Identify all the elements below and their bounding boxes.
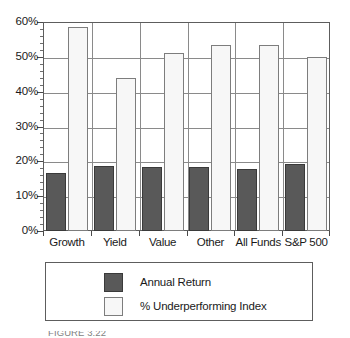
legend-item-underperforming-index: % Underperforming Index [104, 295, 266, 317]
bar-growth-annual-return [46, 173, 66, 231]
legend-label: Annual Return [140, 276, 211, 289]
bar-value--underperforming-index [164, 53, 184, 231]
y-axis-tick-label: 20% [0, 155, 38, 167]
bar-yield-annual-return [94, 166, 114, 231]
bar-all-funds-annual-return [237, 169, 257, 231]
bars-layer [43, 22, 330, 231]
bar-s-p-500-annual-return [285, 164, 305, 231]
bar-growth--underperforming-index [68, 27, 88, 231]
bar-yield--underperforming-index [116, 78, 136, 231]
bar-value-annual-return [142, 167, 162, 231]
bar-other--underperforming-index [211, 45, 231, 231]
plot-area: 60% 50% 40% 30% 20% 10% 0% Growth Yield … [0, 0, 350, 250]
legend-swatch-underperforming-index [104, 297, 123, 316]
x-axis-labels: Growth Yield Value Other All Funds S&P 5… [43, 236, 330, 252]
x-axis-category-label: S&P 500 [274, 236, 338, 249]
y-axis-labels: 60% 50% 40% 30% 20% 10% 0% [0, 22, 38, 231]
y-axis-tick-label: 10% [0, 190, 38, 202]
legend-item-annual-return: Annual Return [104, 271, 211, 293]
bar-chart-figure: 60% 50% 40% 30% 20% 10% 0% Growth Yield … [0, 0, 350, 338]
legend-label: % Underperforming Index [140, 300, 266, 313]
y-axis-tick-label: 30% [0, 121, 38, 133]
y-axis-tick-label: 40% [0, 86, 38, 98]
chart-legend: Annual Return % Underperforming Index [45, 262, 313, 321]
bar-other-annual-return [189, 167, 209, 231]
bar-all-funds--underperforming-index [259, 45, 279, 231]
figure-caption-text: FIGURE 3.22 [48, 331, 106, 338]
y-axis-tick-label: 50% [0, 51, 38, 63]
y-axis-tick-label: 60% [0, 16, 38, 28]
figure-caption-cropped: FIGURE 3.22 [0, 331, 350, 338]
y-axis-tick-label: 0% [0, 225, 38, 237]
bar-s-p-500--underperforming-index [307, 57, 327, 231]
legend-swatch-annual-return [104, 273, 123, 292]
